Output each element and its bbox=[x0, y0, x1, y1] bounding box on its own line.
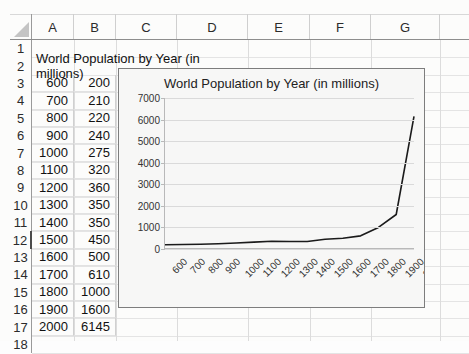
row-header-15[interactable]: 15 bbox=[10, 284, 32, 301]
row-header-4[interactable]: 4 bbox=[10, 92, 32, 109]
cell-a4[interactable]: 700 bbox=[32, 92, 74, 109]
y-axis-tick-label: 7000 bbox=[138, 93, 160, 104]
y-gridline bbox=[165, 163, 414, 164]
y-axis-tick-label: 2000 bbox=[138, 200, 160, 211]
column-header-d[interactable]: D bbox=[177, 14, 248, 40]
row-header-12[interactable]: 12 bbox=[10, 231, 32, 248]
x-axis-tick-label: 1600 bbox=[349, 256, 373, 280]
y-axis-tick-label: 6000 bbox=[138, 114, 160, 125]
y-axis-tick-mark bbox=[161, 227, 165, 228]
y-gridline bbox=[165, 249, 414, 250]
cell-b11[interactable]: 350 bbox=[74, 214, 116, 231]
row-header-13[interactable]: 13 bbox=[10, 249, 32, 266]
x-axis-tick-label: 1900 bbox=[403, 256, 425, 280]
cell-b4[interactable]: 210 bbox=[74, 92, 116, 109]
select-all-triangle-icon bbox=[14, 22, 29, 37]
y-gridline bbox=[165, 98, 414, 99]
cell-b7[interactable]: 275 bbox=[74, 144, 116, 161]
y-gridline bbox=[165, 184, 414, 185]
cell-b14[interactable]: 610 bbox=[74, 266, 116, 283]
cell-b5[interactable]: 220 bbox=[74, 110, 116, 127]
column-header-e[interactable]: E bbox=[248, 14, 310, 40]
cell-a3[interactable]: 600 bbox=[32, 75, 74, 92]
row-header-6[interactable]: 6 bbox=[10, 127, 32, 144]
column-rule bbox=[440, 40, 441, 341]
y-axis-tick-label: 0 bbox=[154, 244, 160, 255]
row-header-1[interactable]: 1 bbox=[10, 40, 32, 57]
series-polyline bbox=[165, 116, 414, 244]
column-rule bbox=[116, 40, 117, 341]
cell-a11[interactable]: 1400 bbox=[32, 214, 74, 231]
chart-object[interactable]: World Population by Year (in millions) 0… bbox=[118, 68, 425, 308]
row-header-17[interactable]: 17 bbox=[10, 318, 32, 335]
cell-b15[interactable]: 1000 bbox=[74, 284, 116, 301]
row-header-14[interactable]: 14 bbox=[10, 266, 32, 283]
y-axis-tick-mark bbox=[161, 141, 165, 142]
row-header-10[interactable]: 10 bbox=[10, 197, 32, 214]
cell-b10[interactable]: 350 bbox=[74, 197, 116, 214]
row-header-9[interactable]: 9 bbox=[10, 179, 32, 196]
x-axis-tick-label: 800 bbox=[205, 256, 225, 276]
row-header-2[interactable]: 2 bbox=[10, 57, 32, 74]
y-axis-tick-mark bbox=[161, 206, 165, 207]
cell-b16[interactable]: 1600 bbox=[74, 301, 116, 318]
row-header-11[interactable]: 11 bbox=[10, 214, 32, 231]
y-gridline bbox=[165, 120, 414, 121]
cell-a7[interactable]: 1000 bbox=[32, 144, 74, 161]
column-header-g[interactable]: G bbox=[371, 14, 440, 40]
y-axis-tick-label: 4000 bbox=[138, 157, 160, 168]
header-baseline bbox=[10, 39, 469, 40]
cell-b17[interactable]: 6145 bbox=[74, 318, 116, 335]
cell-a17[interactable]: 2000 bbox=[32, 318, 74, 335]
x-axis-tick-label: 900 bbox=[223, 256, 243, 276]
cell-b3[interactable]: 200 bbox=[74, 75, 116, 92]
y-gridline bbox=[165, 227, 414, 228]
cell-a14[interactable]: 1700 bbox=[32, 266, 74, 283]
row-header-5[interactable]: 5 bbox=[10, 110, 32, 127]
y-axis-tick-mark bbox=[161, 249, 165, 250]
y-axis-tick-label: 1000 bbox=[138, 222, 160, 233]
y-axis-tick-label: 5000 bbox=[138, 136, 160, 147]
row-header-18[interactable]: 18 bbox=[10, 336, 32, 353]
cell-b12[interactable]: 450 bbox=[74, 231, 116, 248]
column-header-b[interactable]: B bbox=[74, 14, 116, 40]
y-gridline bbox=[165, 206, 414, 207]
cell-b8[interactable]: 320 bbox=[74, 162, 116, 179]
y-gridline bbox=[165, 141, 414, 142]
cell-b6[interactable]: 240 bbox=[74, 127, 116, 144]
cell-a9[interactable]: 1200 bbox=[32, 179, 74, 196]
y-axis-tick-mark bbox=[161, 163, 165, 164]
y-axis-tick-label: 3000 bbox=[138, 179, 160, 190]
cell-a16[interactable]: 1900 bbox=[32, 301, 74, 318]
row-header-16[interactable]: 16 bbox=[10, 301, 32, 318]
population-line-series bbox=[165, 98, 414, 249]
cell-a10[interactable]: 1300 bbox=[32, 197, 74, 214]
x-axis-tick-label: 600 bbox=[170, 256, 190, 276]
cell-a5[interactable]: 800 bbox=[32, 110, 74, 127]
row-header-8[interactable]: 8 bbox=[10, 162, 32, 179]
x-axis-tick-label: 1100 bbox=[260, 256, 283, 279]
cell-a15[interactable]: 1800 bbox=[32, 284, 74, 301]
y-axis-tick-mark bbox=[161, 98, 165, 99]
y-axis-tick-mark bbox=[161, 184, 165, 185]
cell-b13[interactable]: 500 bbox=[74, 249, 116, 266]
row-header-3[interactable]: 3 bbox=[10, 75, 32, 92]
cell-a8[interactable]: 1100 bbox=[32, 162, 74, 179]
row-rule bbox=[32, 336, 469, 337]
row-header-7[interactable]: 7 bbox=[10, 144, 32, 161]
column-header-f[interactable]: F bbox=[310, 14, 371, 40]
cell-a6[interactable]: 900 bbox=[32, 127, 74, 144]
cell-a13[interactable]: 1600 bbox=[32, 249, 74, 266]
chart-plot-area: 0100020003000400050006000700060070080090… bbox=[165, 98, 414, 249]
cell-a12[interactable]: 1500 bbox=[32, 231, 74, 248]
x-axis-tick-label: 700 bbox=[188, 256, 208, 276]
column-header-c[interactable]: C bbox=[116, 14, 177, 40]
cell-b9[interactable]: 360 bbox=[74, 179, 116, 196]
column-header-a[interactable]: A bbox=[32, 14, 74, 40]
column-header-row: ABCDEFG bbox=[0, 14, 469, 40]
x-axis-tick-label: 1200 bbox=[278, 256, 302, 280]
chart-title: World Population by Year (in millions) bbox=[119, 76, 424, 91]
y-axis-tick-mark bbox=[161, 120, 165, 121]
select-all-button[interactable] bbox=[10, 14, 32, 40]
